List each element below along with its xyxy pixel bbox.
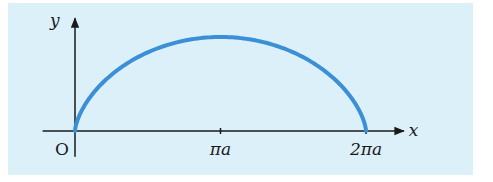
origin-label: O	[55, 139, 69, 159]
y-axis-label: y	[49, 10, 60, 30]
cycloid-diagram: x y O πa2πa	[0, 0, 493, 182]
x-tick-label: 2πa	[349, 139, 382, 159]
cycloid-curve	[75, 37, 366, 131]
x-axis-label: x	[409, 120, 419, 140]
x-tick-label: πa	[209, 139, 231, 159]
